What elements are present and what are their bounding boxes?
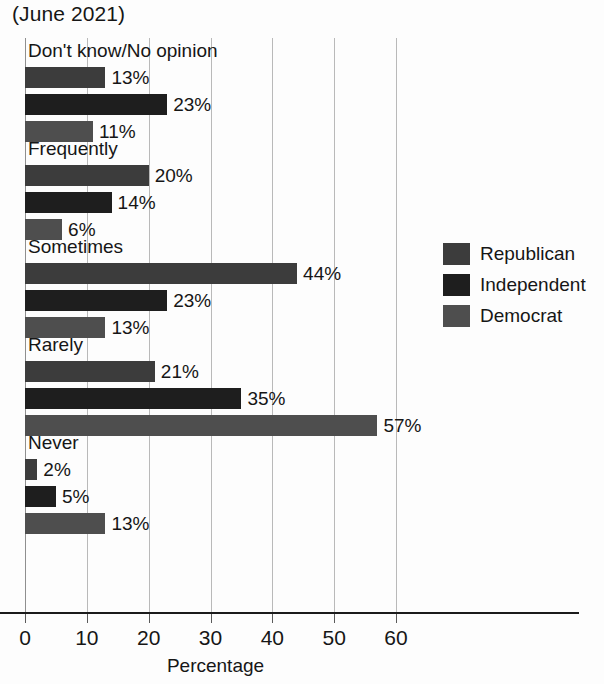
legend-item-democrat[interactable]: Democrat [443,300,586,331]
chart-legend: RepublicanIndependentDemocrat [443,238,586,331]
bar-value-label: 20% [149,165,193,187]
x-tick-0 [25,614,26,623]
legend-item-independent[interactable]: Independent [443,269,586,300]
legend-label: Independent [480,274,586,296]
bar-row: 13% [25,67,396,88]
bar-value-label: 21% [155,361,199,383]
legend-label: Republican [480,243,575,265]
bar-value-label: 23% [167,94,211,116]
bar-row: 13% [25,513,396,534]
bar-value-label: 44% [297,263,341,285]
bar-row: 35% [25,388,396,409]
x-tick-40 [272,614,273,623]
bar-value-label: 13% [105,513,149,535]
bar-independent[interactable] [25,290,167,311]
x-tick-30 [211,614,212,623]
bar-republican[interactable] [25,165,149,186]
x-tick-label-30: 30 [199,626,222,650]
bar-value-label: 5% [56,486,89,508]
bar-independent[interactable] [25,94,167,115]
bar-value-label: 23% [167,290,211,312]
x-tick-label-10: 10 [75,626,98,650]
x-tick-label-50: 50 [322,626,345,650]
group-label: Don't know/No opinion [28,40,218,62]
bar-row: 57% [25,415,396,436]
bar-row: 20% [25,165,396,186]
bar-row: 2% [25,459,396,480]
bar-value-label: 13% [105,317,149,339]
legend-swatch-icon [443,243,470,265]
x-tick-20 [149,614,150,623]
x-tick-10 [87,614,88,623]
x-tick-50 [334,614,335,623]
group-label: Sometimes [28,236,123,258]
x-tick-label-0: 0 [19,626,31,650]
x-tick-label-60: 60 [384,626,407,650]
bar-value-label: 35% [241,388,285,410]
legend-label: Democrat [480,305,562,327]
bar-value-label: 13% [105,67,149,89]
legend-swatch-icon [443,305,470,327]
x-tick-label-40: 40 [261,626,284,650]
bar-republican[interactable] [25,459,37,480]
bar-independent[interactable] [25,388,241,409]
bar-row: 23% [25,94,396,115]
bar-republican[interactable] [25,67,105,88]
bar-republican[interactable] [25,361,155,382]
bar-row: 23% [25,290,396,311]
plot-area: Don't know/No opinion13%23%11%Frequently… [25,38,396,613]
bar-independent[interactable] [25,486,56,507]
legend-item-republican[interactable]: Republican [443,238,586,269]
group-label: Frequently [28,138,118,160]
x-axis-title: Percentage [5,655,426,677]
bar-chart: (June 2021) Don't know/No opinion13%23%1… [0,0,604,684]
bar-row: 21% [25,361,396,382]
gridline-60 [396,38,397,613]
bar-row: 44% [25,263,396,284]
bar-value-label: 57% [377,415,421,437]
chart-title: (June 2021) [12,2,125,26]
bar-value-label: 14% [112,192,156,214]
bar-independent[interactable] [25,192,112,213]
x-tick-label-20: 20 [137,626,160,650]
group-label: Never [28,432,79,454]
bar-republican[interactable] [25,263,297,284]
group-label: Rarely [28,334,83,356]
bar-democrat[interactable] [25,513,105,534]
bar-row: 14% [25,192,396,213]
x-tick-60 [396,614,397,623]
legend-swatch-icon [443,274,470,296]
bar-value-label: 2% [37,459,70,481]
bar-row: 5% [25,486,396,507]
